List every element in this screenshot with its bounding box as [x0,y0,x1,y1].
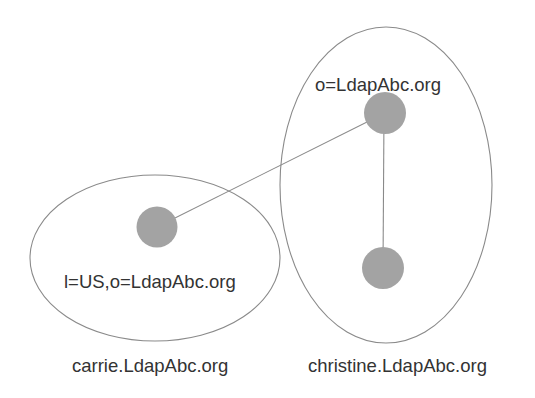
domain-label-carrie: carrie.LdapAbc.org [72,355,228,376]
node-root [364,92,406,134]
edge-root-to-us [157,113,385,227]
node-label-root: o=LdapAbc.org [315,74,441,95]
ldap-diagram: o=LdapAbc.org l=US,o=LdapAbc.org carrie.… [0,0,535,398]
domain-label-christine: christine.LdapAbc.org [308,355,487,376]
node-us [137,207,178,248]
node-child [362,247,404,289]
edge-root-to-child [383,113,384,268]
node-label-us: l=US,o=LdapAbc.org [64,271,236,292]
domain-ellipse-carrie [30,175,280,341]
